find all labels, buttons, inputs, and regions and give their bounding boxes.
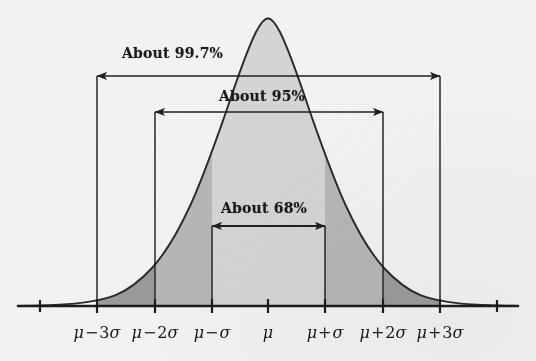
region-right-2sd-band xyxy=(325,0,383,307)
axis-label-minus-1sd: μ−σ xyxy=(194,325,231,341)
label-about-95-percent: About 95% xyxy=(219,88,305,104)
region-central-1sd-band xyxy=(212,0,325,307)
region-left-outer-tail xyxy=(0,0,97,307)
axis-label-mu: μ xyxy=(263,325,273,341)
label-about-99-7-percent: About 99.7% xyxy=(122,45,223,61)
axis-label-plus-3sd: μ+3σ xyxy=(417,325,464,341)
axis-label-minus-3sd: μ−3σ xyxy=(74,325,121,341)
density-shading xyxy=(0,0,536,307)
region-right-3sd-band xyxy=(383,0,440,307)
axis-label-minus-2sd: μ−2σ xyxy=(132,325,179,341)
region-right-outer-tail xyxy=(440,0,536,307)
distribution-plot xyxy=(0,0,536,361)
normal-distribution-figure: About 99.7% About 95% About 68% μ−3σ μ−2… xyxy=(0,0,536,361)
axis-tick-labels: μ−3σ μ−2σ μ−σ μ μ+σ μ+2σ μ+3σ xyxy=(0,325,536,355)
label-about-68-percent: About 68% xyxy=(221,200,307,216)
axis-label-plus-2sd: μ+2σ xyxy=(360,325,407,341)
axis-label-plus-1sd: μ+σ xyxy=(307,325,344,341)
